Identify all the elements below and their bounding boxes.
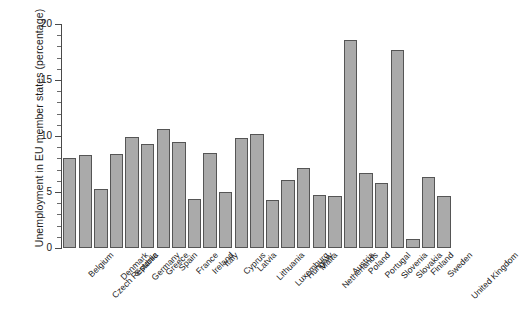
y-tick-label: 0	[16, 242, 52, 253]
y-axis-title: Unemployment in EU member states (percen…	[33, 3, 45, 253]
bar	[94, 189, 107, 248]
y-tick-minor	[57, 158, 61, 159]
y-tick-major	[55, 192, 61, 193]
x-tick-label: United Kingdom	[469, 250, 520, 301]
y-tick-minor	[57, 181, 61, 182]
y-tick-major	[55, 136, 61, 137]
y-tick-minor	[57, 58, 61, 59]
bar	[422, 177, 435, 248]
y-tick-minor	[57, 203, 61, 204]
y-tick-minor	[57, 170, 61, 171]
bar	[157, 129, 170, 248]
y-tick-minor	[57, 102, 61, 103]
bar	[203, 153, 216, 248]
y-tick-minor	[57, 147, 61, 148]
bar	[375, 183, 388, 248]
x-axis-tick-labels: BelgiumCzech RepublicDenmarkEstoniaGerma…	[62, 250, 452, 335]
bar	[250, 134, 263, 248]
bar	[313, 195, 326, 248]
bar	[235, 138, 248, 248]
bar	[219, 192, 232, 248]
bar	[172, 142, 185, 248]
y-tick-minor	[57, 226, 61, 227]
bar	[110, 154, 123, 248]
bar	[328, 196, 341, 248]
y-tick-label: 5	[16, 186, 52, 197]
y-tick-minor	[57, 125, 61, 126]
y-tick-minor	[57, 35, 61, 36]
x-tick-label: Belgium	[86, 250, 115, 279]
bar	[188, 199, 201, 248]
y-tick-major	[55, 248, 61, 249]
y-tick-major	[55, 24, 61, 25]
bar	[125, 137, 138, 248]
y-tick-minor	[57, 114, 61, 115]
bar	[391, 50, 404, 248]
y-tick-label: 10	[16, 130, 52, 141]
bar	[281, 180, 294, 248]
y-tick-major	[55, 80, 61, 81]
plot-area	[62, 24, 452, 248]
bar	[344, 40, 357, 248]
bar	[359, 173, 372, 248]
y-tick-minor	[57, 69, 61, 70]
bar	[63, 158, 76, 248]
bar	[406, 239, 419, 248]
y-tick-minor	[57, 91, 61, 92]
y-tick-minor	[57, 237, 61, 238]
y-tick-minor	[57, 46, 61, 47]
bar	[266, 200, 279, 248]
bar	[79, 155, 92, 248]
bar	[141, 144, 154, 248]
y-tick-minor	[57, 214, 61, 215]
y-tick-label: 15	[16, 74, 52, 85]
bar	[297, 168, 310, 248]
y-tick-label: 20	[16, 18, 52, 29]
bar	[437, 196, 450, 248]
